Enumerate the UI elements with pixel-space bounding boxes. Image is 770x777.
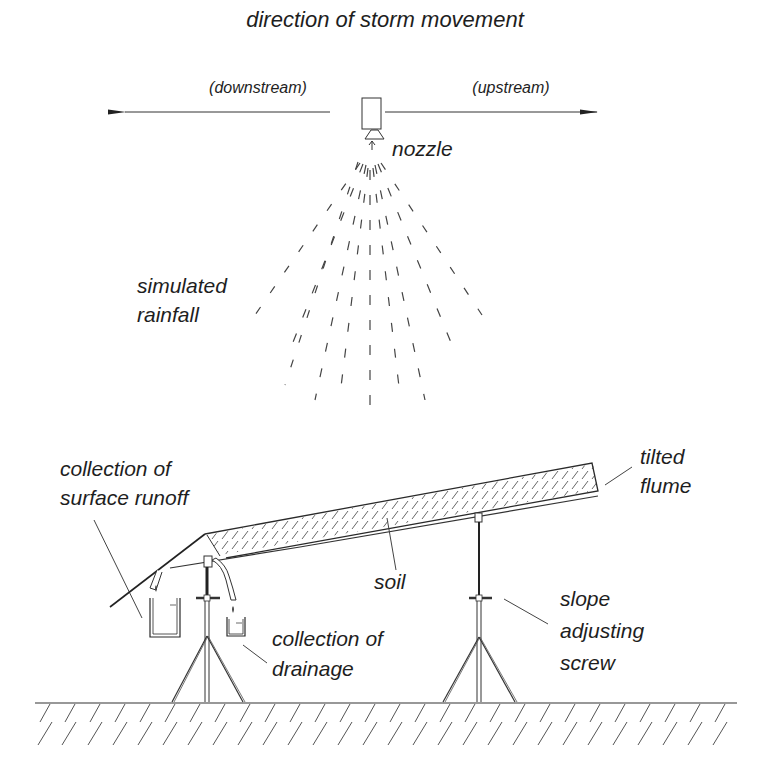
right-tripod-stand-icon (443, 513, 517, 702)
runoff-container-icon (150, 585, 180, 637)
screw-label-line2: adjusting (560, 619, 644, 642)
nozzle-icon (362, 98, 384, 150)
soil-label: soil (374, 570, 407, 593)
runoff-label-line1: collection of (60, 457, 173, 480)
drainage-leader-line (243, 645, 267, 663)
drainage-container-icon (227, 606, 245, 636)
upstream-label: (upstream) (472, 79, 549, 96)
rainfall-label-line2: rainfall (137, 303, 200, 326)
drainage-label-line1: collection of (272, 627, 385, 650)
flume-label-line1: tilted (640, 445, 686, 468)
ground-icon (35, 703, 737, 745)
runoff-leader-line (94, 520, 142, 618)
screw-leader-line (504, 599, 548, 624)
nozzle-label: nozzle (392, 137, 453, 160)
tilted-flume (110, 463, 598, 607)
rainfall-simulator-diagram: direction of storm movement (downstream)… (0, 0, 770, 777)
rainfall-spray-icon (255, 162, 482, 415)
screw-label-line3: screw (560, 651, 617, 674)
rainfall-label-line1: simulated (137, 274, 228, 297)
downstream-label: (downstream) (209, 79, 307, 96)
flume-label-line2: flume (640, 474, 691, 497)
screw-label-line1: slope (560, 587, 610, 610)
soil-leader-line (387, 518, 396, 570)
left-tripod-stand-icon (172, 567, 245, 702)
drainage-pipe-icon (204, 556, 236, 600)
soil-layer (207, 464, 598, 555)
flume-leader-line (605, 467, 632, 485)
drainage-label-line2: drainage (272, 657, 354, 680)
runoff-label-line2: surface runoff (60, 486, 191, 509)
diagram-title: direction of storm movement (246, 7, 524, 32)
